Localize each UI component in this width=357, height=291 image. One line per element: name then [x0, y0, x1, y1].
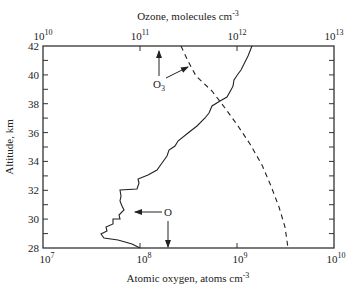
left-axis-ticks — [43, 60, 48, 233]
svg-text:107: 107 — [40, 251, 55, 265]
bottom-axis-tick-labels: 107 108 109 1010 — [40, 251, 346, 265]
svg-text:36: 36 — [28, 127, 40, 139]
svg-text:1010: 1010 — [327, 251, 346, 265]
svg-text:38: 38 — [28, 98, 40, 110]
svg-text:Atomic oxygen, atoms cm-3: Atomic oxygen, atoms cm-3 — [127, 271, 250, 284]
svg-text:1012: 1012 — [228, 28, 247, 42]
svg-text:109: 109 — [233, 251, 248, 265]
svg-text:28: 28 — [28, 242, 40, 254]
svg-text:O3: O3 — [153, 78, 165, 93]
ozone-curve — [181, 46, 288, 248]
y-axis-title: Altitude, km — [3, 119, 15, 175]
svg-text:Ozone, molecules cm-3: Ozone, molecules cm-3 — [137, 9, 239, 22]
svg-text:30: 30 — [28, 213, 40, 225]
plot-frame — [43, 46, 334, 248]
oxygen-annotation: O — [135, 206, 172, 247]
bottom-axis-ticks — [140, 243, 237, 248]
svg-text:108: 108 — [137, 251, 152, 265]
y-axis-tick-labels: 42 40 38 36 34 32 30 28 — [28, 40, 40, 254]
svg-text:1013: 1013 — [325, 28, 344, 42]
top-axis-ticks — [140, 46, 237, 51]
svg-text:40: 40 — [28, 69, 40, 81]
svg-text:O: O — [164, 206, 172, 218]
top-axis-title: Ozone, molecules cm-3 — [137, 9, 239, 22]
svg-text:32: 32 — [28, 184, 39, 196]
bottom-axis-title: Atomic oxygen, atoms cm-3 — [127, 271, 250, 284]
right-axis-ticks — [329, 60, 334, 233]
chart: Ozone, molecules cm-3 1010 1011 1012 101… — [0, 0, 357, 291]
svg-text:1011: 1011 — [131, 28, 150, 42]
svg-text:42: 42 — [28, 40, 39, 52]
svg-text:34: 34 — [28, 155, 40, 167]
ozone-annotation: O3 — [153, 51, 188, 93]
top-axis-tick-labels: 1010 1011 1012 1013 — [34, 28, 344, 42]
atomic-oxygen-curve — [101, 46, 252, 248]
